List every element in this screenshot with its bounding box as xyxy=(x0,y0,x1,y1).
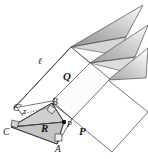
right-angle-marker-A xyxy=(55,134,62,141)
point-label-B: B xyxy=(52,98,58,108)
point-label-C-prime: C' xyxy=(13,104,21,114)
plane-label-P: P xyxy=(79,126,86,137)
point-label-P: P xyxy=(67,121,72,129)
point-P-dot xyxy=(62,120,66,124)
geometry-figure: P Q R A B C C' P ℓ z xyxy=(0,0,148,159)
geometry-canvas xyxy=(0,0,148,159)
angle-label-z: z xyxy=(23,108,26,116)
point-label-A: A xyxy=(55,145,61,155)
line-label-ell: ℓ xyxy=(38,57,42,66)
plane-label-Q: Q xyxy=(63,71,71,82)
plane-label-R: R xyxy=(41,123,48,134)
point-label-C: C xyxy=(3,128,9,138)
